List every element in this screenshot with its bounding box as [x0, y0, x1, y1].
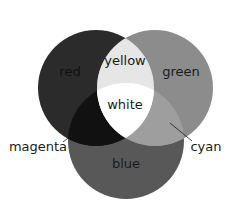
label-green: green	[162, 64, 200, 79]
label-magenta: magenta	[9, 139, 67, 154]
venn-diagram: red yellow green white magenta cyan blue	[0, 0, 239, 211]
label-cyan: cyan	[190, 139, 221, 154]
label-blue: blue	[112, 156, 140, 171]
label-white: white	[107, 97, 143, 112]
label-yellow: yellow	[104, 53, 146, 68]
label-red: red	[59, 64, 80, 79]
